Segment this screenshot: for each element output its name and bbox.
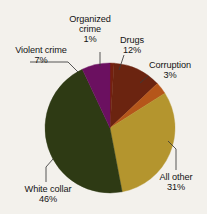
slice-label-all-other: All other 31% (147, 172, 205, 192)
white-collar-percent: 46% (10, 194, 86, 204)
corruption-label-line1: Corruption (149, 60, 191, 70)
drugs-percent: 12% (112, 45, 152, 55)
slice-label-organized-crime: Organized crime 1% (62, 14, 118, 45)
organized-crime-percent: 1% (62, 34, 118, 44)
slice-label-violent-crime: Violent crime 7% (2, 45, 80, 65)
pie-chart-figure: Organized crime 1% Drugs 12% Corruption … (0, 0, 207, 214)
violent-crime-percent: 7% (2, 55, 80, 65)
slice-label-white-collar: White collar 46% (10, 184, 86, 204)
corruption-percent: 3% (137, 70, 203, 80)
white-collar-label-line1: White collar (25, 184, 72, 194)
organized-crime-label-line2: crime (79, 24, 101, 34)
slice-label-corruption: Corruption 3% (137, 60, 203, 80)
violent-crime-label-line1: Violent crime (15, 45, 67, 55)
all-other-label-line1: All other (160, 172, 193, 182)
slice-label-drugs: Drugs 12% (112, 35, 152, 55)
leader-line-white-collar (46, 159, 53, 182)
organized-crime-label-line1: Organized (69, 14, 111, 24)
drugs-label-line1: Drugs (120, 35, 144, 45)
all-other-percent: 31% (147, 182, 205, 192)
